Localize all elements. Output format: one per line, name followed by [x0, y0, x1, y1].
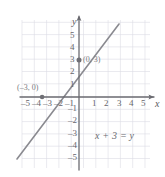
- y-tick-label-neg5: –5: [68, 153, 77, 162]
- x-tick-label-4: 4: [129, 99, 134, 108]
- grid-lines: [22, 20, 150, 168]
- y-intercept-label: (0, 3): [83, 56, 100, 64]
- y-tick-label-4: 4: [70, 43, 75, 52]
- x-tick-label-neg4: –4: [32, 99, 41, 108]
- coordinate-plane-figure: –5 –4 –3 –2 –1 1 2 3 4 5 5 4 3 2 1 –1 –2…: [0, 0, 165, 177]
- x-axis-label: x: [155, 99, 159, 109]
- y-tick-label-neg1: –1: [68, 104, 77, 113]
- x-tick-label-1: 1: [92, 99, 97, 108]
- y-axis-label: y: [72, 17, 76, 27]
- x-tick-label-neg5: –5: [21, 99, 30, 108]
- x-tick-label-5: 5: [141, 99, 146, 108]
- y-tick-label-3: 3: [70, 55, 75, 64]
- y-tick-label-neg4: –4: [68, 141, 77, 150]
- equation-label: x + 3 = y: [95, 131, 134, 141]
- y-tick-label-neg3: –3: [68, 129, 77, 138]
- y-tick-label-2: 2: [70, 67, 75, 76]
- x-tick-label-2: 2: [104, 99, 109, 108]
- y-tick-label-neg2: –2: [68, 116, 77, 125]
- y-tick-label-1: 1: [70, 80, 75, 89]
- y-tick-label-5: 5: [70, 31, 75, 40]
- x-tick-label-3: 3: [117, 99, 122, 108]
- point-marker-y-intercept: [77, 58, 82, 63]
- x-intercept-label: (–3, 0): [17, 84, 38, 92]
- x-tick-label-neg3: –3: [43, 99, 52, 108]
- x-tick-label-neg2: –2: [54, 99, 63, 108]
